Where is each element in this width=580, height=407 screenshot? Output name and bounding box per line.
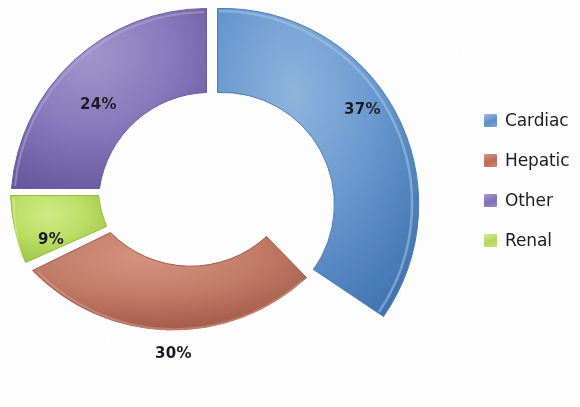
- slice-hepatic[interactable]: [33, 233, 307, 330]
- slice-label-renal: 9%: [38, 230, 64, 248]
- legend-item-cardiac[interactable]: Cardiac: [484, 100, 580, 140]
- legend-item-renal[interactable]: Renal: [484, 220, 580, 260]
- legend-item-hepatic[interactable]: Hepatic: [484, 140, 580, 180]
- legend-label-cardiac: Cardiac: [505, 110, 569, 130]
- slice-label-other: 24%: [80, 95, 117, 113]
- chart-legend: Cardiac Hepatic Other Renal: [484, 100, 580, 260]
- legend-swatch-cardiac: [484, 114, 497, 127]
- legend-label-other: Other: [505, 190, 553, 210]
- legend-swatch-renal: [484, 234, 497, 247]
- slice-label-cardiac: 37%: [344, 100, 381, 118]
- legend-label-renal: Renal: [505, 230, 552, 250]
- legend-swatch-other: [484, 194, 497, 207]
- legend-item-other[interactable]: Other: [484, 180, 580, 220]
- legend-swatch-hepatic: [484, 154, 497, 167]
- legend-label-hepatic: Hepatic: [505, 150, 570, 170]
- slice-label-hepatic: 30%: [155, 344, 192, 362]
- donut-chart: 37% 30% 24% 9% Cardiac Hepatic Other Ren…: [0, 0, 580, 407]
